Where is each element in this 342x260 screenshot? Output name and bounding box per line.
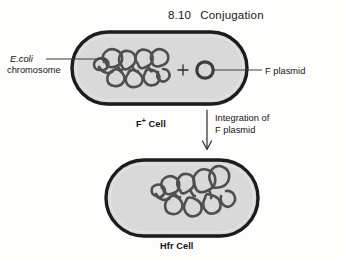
hfr-cell-group xyxy=(106,160,259,238)
label-hfr-cell: Hfr Cell xyxy=(160,241,193,253)
label-chromosome: chromosome xyxy=(7,65,61,77)
f-plus-cell-group xyxy=(72,32,248,106)
label-integration-line1: Integration of xyxy=(215,113,269,123)
label-ecoli: E.coli xyxy=(10,54,33,66)
figure-container: 8.10Conjugation xyxy=(0,0,342,260)
integration-arrow xyxy=(203,110,212,150)
label-integration: Integration ofF plasmid xyxy=(215,113,269,136)
label-integration-line2: F plasmid xyxy=(215,125,269,137)
label-f-plus-cell-suffix: Cell xyxy=(146,119,166,129)
label-f-plasmid: F plasmid xyxy=(265,66,305,78)
diagram-canvas xyxy=(0,0,342,260)
label-f-plus-cell: F+ Cell xyxy=(136,115,166,131)
